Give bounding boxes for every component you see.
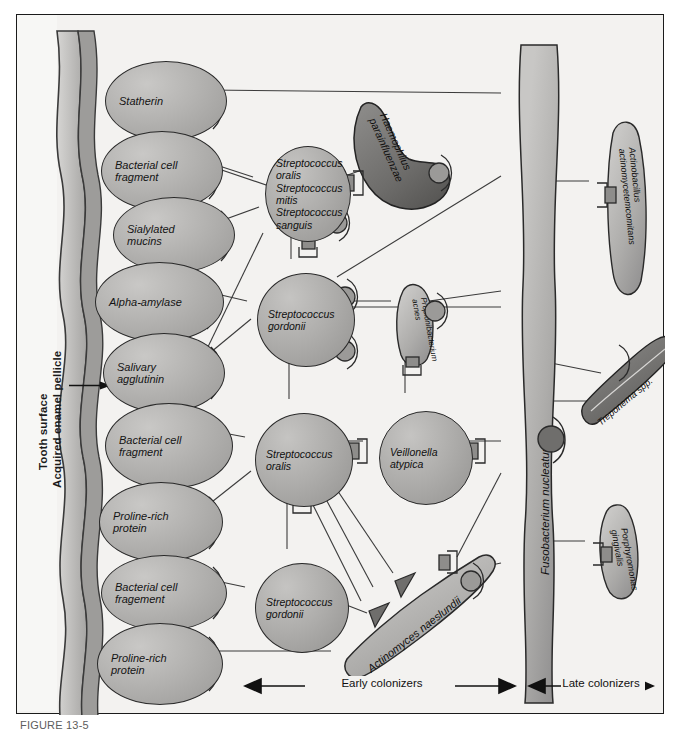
figure-caption: FIGURE 13-5 (20, 719, 89, 731)
pellicle-molecule-label: Alpha-amylase (96, 296, 182, 308)
pellicle-molecule: Proline-rich protein (97, 623, 223, 705)
pellicle-molecule: Statherin (105, 61, 227, 141)
figure-frame: Tooth surface Acquired enamel pellicle (16, 14, 664, 714)
rod-label-fusobacterium: Fusobacterium nucleatum (539, 443, 551, 575)
bacterium-label: Streptococcus gordonii (256, 596, 333, 621)
bacterium-coccus: Veillonella atypica (379, 411, 473, 505)
pellicle-molecule-label: Proline-rich protein (98, 652, 167, 677)
bacterium-label: Streptococcus oralis Streptococcus mitis… (266, 157, 343, 231)
pellicle-molecule-label: Salivary agglutinin (104, 361, 164, 386)
pellicle-molecule-label: Proline-rich protein (100, 510, 169, 535)
late-colonizers-label: Late colonizers (555, 677, 647, 689)
bacterium-label: Streptococcus gordonii (258, 308, 335, 333)
early-colonizers-label: Early colonizers (309, 677, 455, 689)
pellicle-molecule: Alpha-amylase (95, 262, 224, 342)
pellicle-molecule: Salivary agglutinin (103, 333, 225, 413)
bacterium-label: Veillonella atypica (380, 446, 437, 471)
pellicle-molecule-label: Statherin (106, 95, 163, 107)
bacterium-coccus: Streptococcus gordonii (255, 563, 349, 653)
pellicle-molecule: Bacterial cell fragment (105, 403, 233, 489)
pellicle-molecule: Sialylated mucins (113, 197, 235, 273)
pellicle-molecule-label: Sialylated mucins (114, 223, 175, 248)
bacterium-coccus: Streptococcus oralis Streptococcus mitis… (265, 146, 351, 242)
bacterium-coccus: Streptococcus oralis (255, 413, 353, 507)
figure-root: Tooth surface Acquired enamel pellicle (0, 0, 680, 735)
pellicle-molecule-label: Bacterial cell fragment (102, 159, 177, 184)
bacterium-coccus: Streptococcus gordonii (257, 273, 355, 367)
pellicle-molecule-label: Bacterial cell fragement (102, 581, 177, 606)
pellicle-molecule: Proline-rich protein (99, 482, 223, 562)
bacterium-label: Streptococcus oralis (256, 448, 333, 473)
pellicle-molecule: Bacterial cell fragement (101, 555, 227, 631)
pellicle-molecule-label: Bacterial cell fragment (106, 434, 181, 459)
